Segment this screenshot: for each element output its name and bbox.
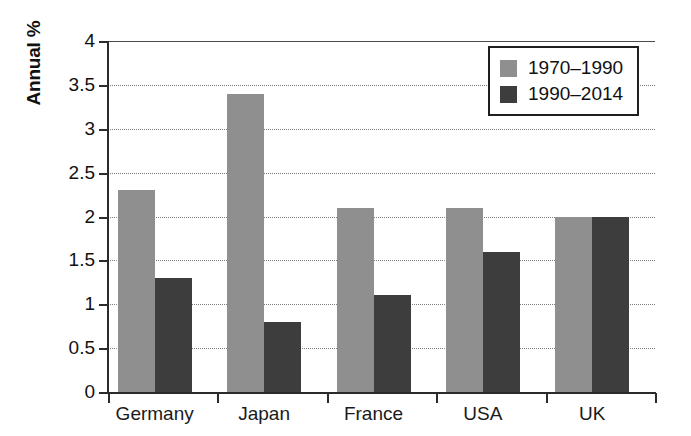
y-tick-label: 3 xyxy=(35,118,95,140)
y-axis-title: Annual % xyxy=(23,3,45,123)
y-tick-label: 4 xyxy=(35,30,95,52)
x-axis-category-label: France xyxy=(344,403,403,425)
y-tick-mark xyxy=(99,85,108,87)
bar xyxy=(155,278,192,392)
y-tick-mark xyxy=(99,173,108,175)
x-axis-category-label: USA xyxy=(463,403,502,425)
y-tick-mark xyxy=(99,217,108,219)
legend-label: 1970–1990 xyxy=(528,57,623,79)
legend-item: 1970–1990 xyxy=(500,55,623,81)
legend-item: 1990–2014 xyxy=(500,81,623,107)
x-axis-line xyxy=(107,392,656,394)
bar xyxy=(446,208,483,392)
gridline xyxy=(108,173,655,174)
x-tick-mark xyxy=(327,393,329,403)
x-axis-category-label: UK xyxy=(579,403,605,425)
x-tick-mark xyxy=(546,393,548,403)
x-tick-mark xyxy=(108,393,110,403)
y-tick-mark xyxy=(99,304,108,306)
bar xyxy=(483,252,520,392)
bar xyxy=(592,217,629,393)
y-tick-mark xyxy=(99,260,108,262)
bar-chart: Annual % 00.511.522.533.54 GermanyJapanF… xyxy=(0,0,691,436)
y-tick-label: 2 xyxy=(35,206,95,228)
x-tick-mark xyxy=(655,393,657,403)
y-tick-label: 1.5 xyxy=(35,249,95,271)
legend: 1970–19901990–2014 xyxy=(488,46,639,116)
legend-label: 1990–2014 xyxy=(528,83,623,105)
y-tick-label: 1 xyxy=(35,293,95,315)
gridline xyxy=(108,41,655,42)
y-tick-mark xyxy=(99,348,108,350)
bar xyxy=(227,94,264,392)
x-axis-category-label: Japan xyxy=(238,403,290,425)
legend-swatch xyxy=(500,86,517,103)
x-axis-category-label: Germany xyxy=(116,403,194,425)
y-tick-label: 0.5 xyxy=(35,337,95,359)
bar xyxy=(264,322,301,392)
y-tick-label: 0 xyxy=(35,381,95,403)
bar xyxy=(337,208,374,392)
y-tick-mark xyxy=(99,41,108,43)
gridline xyxy=(108,129,655,130)
x-tick-mark xyxy=(436,393,438,403)
x-tick-mark xyxy=(217,393,219,403)
y-tick-mark xyxy=(99,129,108,131)
y-tick-label: 3.5 xyxy=(35,74,95,96)
y-tick-mark xyxy=(99,392,108,394)
bar xyxy=(374,295,411,392)
bar xyxy=(118,190,155,392)
y-tick-label: 2.5 xyxy=(35,162,95,184)
legend-swatch xyxy=(500,60,517,77)
bar xyxy=(555,217,592,393)
